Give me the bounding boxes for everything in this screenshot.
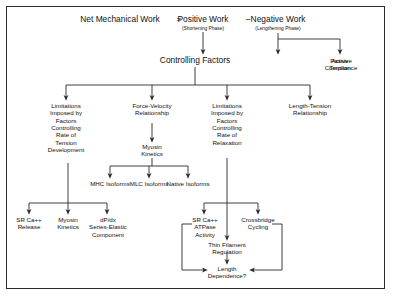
node-passive-compliance: Passive Compliance <box>313 57 369 72</box>
node-native-isoforms: Native Isoforms <box>162 180 214 187</box>
node-length-tension-relationship: Length-Tension Relationship <box>274 102 346 117</box>
node-controlling-factors: Controlling Factors <box>152 56 238 66</box>
node-crossbridge-cycling: Crossbridge Cycling <box>232 216 284 231</box>
label-shortening-phase: (Shortening Phase) <box>166 26 240 32</box>
node-sr-ca-atpase-activity: SR Ca++ ATPase Activity <box>181 216 229 238</box>
node-net-mechanical-work: Net Mechanical Work <box>68 15 172 25</box>
node-limitations-rate-of-relaxation: Limitations Imposed by Factors Controlli… <box>192 102 262 146</box>
node-thin-filament-regulation: Thin Filament Regulation <box>195 241 259 256</box>
node-dpdx-series-elastic-component: dP/dx Series-Elastic Component <box>79 216 137 238</box>
label-lengthening-phase: (Lengthening Phase) <box>241 26 315 32</box>
node-length-dependence: Length Dependence? <box>197 265 257 280</box>
node-negative-work: Negative Work <box>241 15 315 25</box>
node-limitations-tension-development: Limitations Imposed by Factors Controlli… <box>31 102 101 153</box>
diagram-page: Net Mechanical Work = Positive Work – Ne… <box>0 0 393 297</box>
node-myosin-kinetics-middle: Myosin Kinetics <box>122 143 182 158</box>
node-force-velocity-relationship: Force-Velocity Relationship <box>117 102 187 117</box>
node-positive-work: Positive Work <box>166 15 240 25</box>
